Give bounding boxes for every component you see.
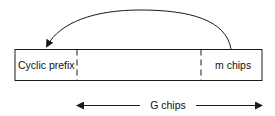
cyclic-prefix-diagram: Cyclic prefix m chips G chips xyxy=(0,0,275,116)
cyclic-prefix-label: Cyclic prefix xyxy=(18,59,75,71)
copy-arrow xyxy=(47,10,231,49)
m-chips-label: m chips xyxy=(215,59,251,71)
g-chips-label: G chips xyxy=(150,99,186,111)
